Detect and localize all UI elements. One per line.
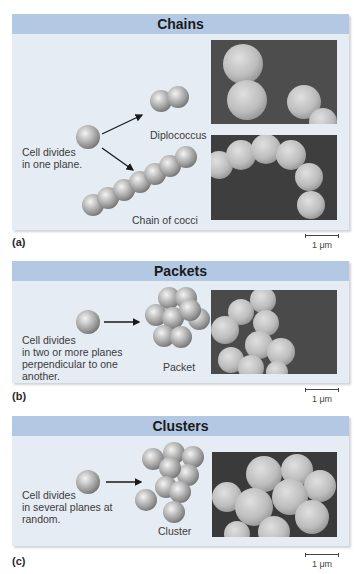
cluster-diagram <box>12 416 212 546</box>
chain-micrograph <box>211 135 337 220</box>
panel-packets: Packets Cell divides in two or more plan… <box>12 261 349 383</box>
part-label-c: (c) <box>12 555 25 567</box>
panel-clusters: Clusters Cell divides in several planes … <box>12 416 349 546</box>
part-label-a: (a) <box>12 236 25 248</box>
single-cell-icon <box>76 310 100 334</box>
packet-micrograph <box>211 290 337 374</box>
cluster-micrograph <box>212 452 337 537</box>
panel-chains: Chains Cell divides in one plane. Diploc… <box>12 14 349 230</box>
diplococcus-micrograph <box>211 40 337 124</box>
single-cell-icon <box>76 125 100 149</box>
single-cell-icon <box>76 470 100 494</box>
part-label-b: (b) <box>12 390 26 402</box>
coccus-diagram <box>12 14 212 230</box>
packet-diagram <box>12 261 212 383</box>
